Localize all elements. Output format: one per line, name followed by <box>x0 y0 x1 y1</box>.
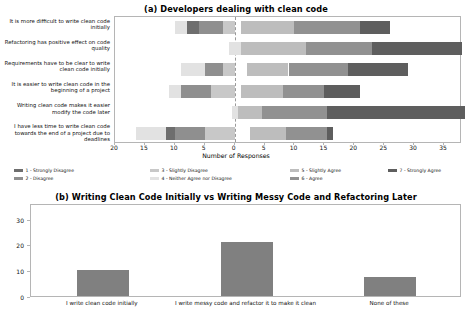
x-tick-label: 15 <box>320 144 328 151</box>
x-tick-label: 10 <box>290 144 298 151</box>
y-tick-label: 30 <box>10 216 24 223</box>
panel-a-x-axis-label: Number of Responses <box>0 152 472 159</box>
legend-swatch <box>150 169 159 172</box>
y-tick-label: 20 <box>10 242 24 249</box>
y-tick-label: 10 <box>10 268 24 275</box>
bar-segment <box>136 127 166 140</box>
x-tick-label: 30 <box>409 144 417 151</box>
legend-swatch <box>14 177 23 180</box>
x-tick-mark <box>353 143 354 145</box>
x-tick-label: 5 <box>202 144 206 151</box>
legend-item: 1 - Strongly Disagree <box>14 168 74 173</box>
legend-swatch <box>150 177 159 180</box>
category-label: I write clean code initially <box>66 300 138 306</box>
table-row <box>115 63 460 76</box>
x-tick-mark <box>293 143 294 145</box>
legend-label: 3 - Slightly Disagree <box>162 168 208 173</box>
x-tick-mark <box>144 143 145 145</box>
legend-label: 5 - Slightly Agree <box>302 168 342 173</box>
bar-segment <box>306 42 372 55</box>
category-label: Writing clean code makes it easier modif… <box>0 102 110 115</box>
panel-b-bar-chart: (b) Writing Clean Code Initially vs Writ… <box>0 188 472 325</box>
bar <box>364 277 416 296</box>
table-row <box>115 85 460 98</box>
legend-item: 2 - Disagree <box>14 176 53 181</box>
panel-a-likert-chart: (a) Developers dealing with clean code I… <box>0 0 472 188</box>
y-tick-mark <box>27 271 30 272</box>
legend-label: 7 - Strongly Agree <box>400 168 442 173</box>
table-row <box>115 21 460 34</box>
bar-segment <box>175 21 187 34</box>
bar-segment <box>223 21 235 34</box>
x-tick-label: 35 <box>439 144 447 151</box>
panel-b-title: (b) Writing Clean Code Initially vs Writ… <box>0 192 472 202</box>
x-tick-label: 10 <box>170 144 178 151</box>
y-tick-mark <box>27 220 30 221</box>
x-tick-mark <box>204 143 205 145</box>
x-tick-mark <box>413 143 414 145</box>
legend-item: 6 - Agree <box>290 176 323 181</box>
bar-segment <box>229 42 241 55</box>
bar-segment <box>181 63 205 76</box>
x-tick-label: 15 <box>140 144 148 151</box>
category-label: Requirements have to be clear to write c… <box>0 60 110 73</box>
x-tick-label: 20 <box>110 144 118 151</box>
legend-item: 5 - Slightly Agree <box>290 168 341 173</box>
legend-item: 4 - Neither Agree nor Disagree <box>150 176 232 181</box>
bar-segment <box>294 21 360 34</box>
bar-segment <box>360 21 390 34</box>
y-tick-mark <box>27 297 30 298</box>
panel-a-plot-area <box>114 16 461 143</box>
category-label: None of these <box>370 300 409 306</box>
legend-swatch <box>14 169 23 172</box>
bar-segment <box>241 21 295 34</box>
panel-a-legend: 1 - Strongly Disagree2 - Disagree3 - Sli… <box>0 168 472 186</box>
x-tick-label: 20 <box>349 144 357 151</box>
legend-swatch <box>290 169 299 172</box>
legend-swatch <box>290 177 299 180</box>
table-row <box>115 42 460 55</box>
x-tick-mark <box>443 143 444 145</box>
category-label: I have less time to write clean code tow… <box>0 123 110 142</box>
x-tick-mark <box>323 143 324 145</box>
x-tick-mark <box>114 143 115 145</box>
y-tick-label: 0 <box>10 294 24 301</box>
category-label: I write messy code and refactor it to ma… <box>175 300 316 306</box>
bar-segment <box>205 127 235 140</box>
panel-a-title: (a) Developers dealing with clean code <box>0 4 472 14</box>
category-label: Refactoring has positive effect on code … <box>0 39 110 52</box>
legend-label: 4 - Neither Agree nor Disagree <box>162 176 232 181</box>
bar-segment <box>247 63 289 76</box>
table-row <box>115 127 460 140</box>
bar-segment <box>181 85 211 98</box>
table-row <box>115 106 460 119</box>
category-label: It is more difficult to write clean code… <box>0 18 110 31</box>
bar-segment <box>327 127 333 140</box>
bar-segment <box>241 42 307 55</box>
zero-reference-line <box>235 17 236 142</box>
bar-segment <box>348 63 408 76</box>
bar-segment <box>289 63 349 76</box>
x-tick-label: 0 <box>232 144 236 151</box>
bar-segment <box>241 85 283 98</box>
bar <box>221 242 273 296</box>
y-tick-mark <box>27 245 30 246</box>
bar-segment <box>250 127 286 140</box>
x-tick-mark <box>264 143 265 145</box>
legend-swatch <box>388 169 397 172</box>
legend-item: 7 - Strongly Agree <box>388 168 441 173</box>
bar-segment <box>262 106 328 119</box>
legend-label: 2 - Disagree <box>26 176 54 181</box>
bar <box>77 270 129 296</box>
bar-segment <box>283 85 325 98</box>
bar-segment <box>327 106 465 119</box>
bar-segment <box>286 127 328 140</box>
bar-segment <box>324 85 360 98</box>
bar-segment <box>223 63 235 76</box>
bar-segment <box>175 127 205 140</box>
bar-segment <box>238 106 262 119</box>
category-label: It is easier to write clean code in the … <box>0 81 110 94</box>
bar-segment <box>169 85 181 98</box>
x-tick-mark <box>383 143 384 145</box>
legend-label: 6 - Agree <box>302 176 323 181</box>
